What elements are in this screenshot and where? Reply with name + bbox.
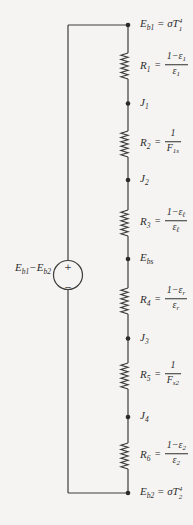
resistor-label-r2: R2 = 1F1s (140, 130, 181, 156)
node-label-j2: J2 (140, 173, 149, 187)
node-label-ebs: Ebs (140, 252, 153, 266)
fraction: 1F1s (165, 127, 181, 156)
voltage-source-symbol: + − (54, 261, 83, 292)
resistor-label-r6: R6 = 1−ε2ε2 (140, 442, 188, 468)
node-label-eb1: Eb1 = σT41 (140, 18, 182, 33)
fraction: 1−εrεr (165, 284, 187, 313)
fraction: 1−εℓεℓ (165, 206, 188, 235)
resistor-3-symbol (121, 210, 128, 236)
minus-sign: − (64, 282, 72, 292)
node-dot-eb1 (126, 23, 131, 28)
node-label-j3: J3 (140, 332, 149, 346)
node-label-j4: J4 (140, 410, 149, 424)
circuit-diagram: + − Eb1−Eb2 Eb1 = σT41 J1 J2 Ebs (0, 0, 193, 525)
node-dot-j1 (126, 101, 131, 106)
node-dot-eb2 (126, 491, 131, 496)
node-dot-ebs (126, 257, 131, 262)
fraction: 1−ε1ε1 (165, 50, 188, 79)
plus-sign: + (64, 262, 72, 272)
node-dot-j3 (126, 336, 131, 341)
resistor-label-r5: R5 = 1Fs2 (140, 362, 181, 388)
resistor-label-r1: R1 = 1−ε1ε1 (140, 53, 188, 79)
source-label: Eb1−Eb2 (15, 262, 51, 276)
node-label-j1: J1 (140, 97, 149, 111)
resistor-2-symbol (121, 131, 128, 157)
node-label-eb2: Eb2 = σT42 (140, 486, 182, 501)
source-label-text: Eb1−Eb2 (15, 261, 51, 273)
resistor-5-symbol (121, 363, 128, 389)
resistor-label-r4: R4 = 1−εrεr (140, 287, 187, 313)
node-dot-j4 (126, 415, 131, 420)
node-dot-j2 (126, 178, 131, 183)
fraction: 1−ε2ε2 (165, 439, 188, 468)
resistor-label-r3: R3 = 1−εℓεℓ (140, 209, 187, 235)
resistor-4-symbol (121, 288, 128, 314)
resistor-6-symbol (121, 443, 128, 469)
resistor-1-symbol (121, 53, 128, 79)
fraction: 1Fs2 (165, 359, 181, 388)
